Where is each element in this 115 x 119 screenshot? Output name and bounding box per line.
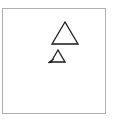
diagram-canvas <box>0 0 115 119</box>
frame-border <box>3 9 106 114</box>
